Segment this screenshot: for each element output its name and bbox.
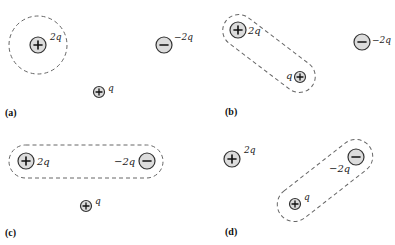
charge-positive-q-c: q xyxy=(81,196,102,212)
panel-label: (c) xyxy=(5,227,16,239)
charge-positive-2q-a: 2q xyxy=(30,32,62,53)
charge-label: 2q xyxy=(247,25,261,36)
charge-negative-2q-b: −2q xyxy=(354,34,391,50)
charge-positive-2q-d: 2q xyxy=(224,145,256,167)
charge-label: q xyxy=(95,196,101,206)
panel-a: 2q −2q q (a) xyxy=(5,16,193,119)
charge-label: q xyxy=(304,192,310,202)
charge-positive-2q-b: 2q xyxy=(230,22,261,38)
panel-label: (d) xyxy=(225,226,237,238)
gaussian-surface-b xyxy=(216,8,321,99)
panel-d: 2q −2q q (d) xyxy=(224,133,380,238)
charge-label: −2q xyxy=(174,32,193,42)
charge-label: q xyxy=(286,70,292,81)
charge-positive-q-a: q xyxy=(94,83,115,98)
charge-label: q xyxy=(108,83,114,93)
charge-positive-q-b: q xyxy=(286,70,306,83)
charge-negative-2q-d: −2q xyxy=(329,149,364,174)
charge-label: −2q xyxy=(372,35,391,45)
charge-negative-2q-c: −2q xyxy=(114,153,155,169)
charge-label: 2q xyxy=(243,145,256,155)
charge-positive-q-d: q xyxy=(290,192,311,210)
charge-label: −2q xyxy=(329,163,350,174)
gaussian-surface-d xyxy=(270,133,379,229)
gauss-surfaces-diagram: 2q −2q q (a) 2q xyxy=(0,0,395,245)
charge-positive-2q-c: 2q xyxy=(18,153,50,169)
panel-label: (b) xyxy=(225,106,237,118)
charge-label: −2q xyxy=(114,156,135,167)
charge-label: 2q xyxy=(49,32,62,42)
charge-negative-2q-a: −2q xyxy=(156,32,193,53)
panel-label: (a) xyxy=(5,107,17,119)
panel-c: 2q −2q q (c) xyxy=(5,145,163,239)
charge-label: 2q xyxy=(36,156,50,167)
panel-b: 2q q −2q (b) xyxy=(216,8,391,118)
